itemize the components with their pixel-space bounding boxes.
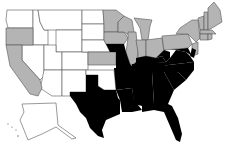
- state-wy: [56, 30, 82, 52]
- state-sd: [82, 24, 104, 40]
- state-ma: [200, 30, 216, 34]
- state-al: [142, 72, 154, 106]
- state-nd: [82, 10, 104, 24]
- state-ar: [114, 68, 134, 90]
- state-az: [40, 70, 62, 96]
- state-or: [6, 28, 33, 45]
- state-fl: [142, 104, 182, 142]
- state-ri: [208, 34, 212, 40]
- state-nh: [204, 12, 208, 30]
- state-co: [62, 52, 88, 70]
- state-me: [208, 2, 222, 30]
- state-ct: [200, 34, 208, 40]
- state-mt: [38, 10, 82, 30]
- state-wa: [6, 10, 33, 28]
- state-ks: [88, 52, 116, 65]
- us-map: [0, 0, 228, 149]
- state-ia: [104, 32, 128, 44]
- state-ak: [20, 103, 76, 140]
- aleutian-islands: [7, 123, 18, 136]
- state-pa: [162, 34, 192, 50]
